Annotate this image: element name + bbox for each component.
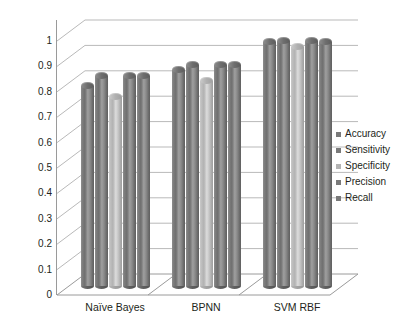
legend-item-label: Specificity <box>345 161 390 171</box>
bar-body <box>277 41 290 286</box>
legend-swatch-icon <box>336 132 341 137</box>
legend-item-label: Sensitivity <box>345 145 390 155</box>
bar <box>228 61 241 286</box>
bar-top-ellipse <box>186 61 199 68</box>
bar-body <box>228 65 241 286</box>
legend-swatch-icon <box>336 164 341 169</box>
bar-body <box>214 65 227 286</box>
bar <box>291 43 304 286</box>
legend-item[interactable]: Sensitivity <box>336 142 416 158</box>
bar-chart: 10.90.80.70.60.50.40.30.20.10 Naïve Baye… <box>0 0 417 330</box>
bar-top-ellipse <box>291 43 304 50</box>
bar <box>186 61 199 286</box>
legend-item-label: Recall <box>345 193 373 203</box>
bar-body <box>305 41 318 286</box>
bar-body <box>137 76 150 285</box>
legend-item[interactable]: Specificity <box>336 158 416 174</box>
bar-body <box>263 42 276 286</box>
bar-body <box>123 76 136 285</box>
bar-top-ellipse <box>137 72 150 79</box>
bar-top-ellipse <box>123 72 136 79</box>
bar-body <box>186 65 199 286</box>
bar-body <box>291 47 304 286</box>
bar <box>277 37 290 286</box>
bar-top-ellipse <box>228 61 241 68</box>
bar-body <box>81 86 94 285</box>
bar <box>123 72 136 285</box>
chart-legend: AccuracySensitivitySpecificityPrecisionR… <box>336 126 416 206</box>
legend-item[interactable]: Accuracy <box>336 126 416 142</box>
bar-top-ellipse <box>305 37 318 44</box>
x-axis-category-label: Naïve Bayes <box>70 301 161 313</box>
bar-top-ellipse <box>214 61 227 68</box>
bar-body <box>109 97 122 286</box>
legend-item-label: Accuracy <box>345 129 386 139</box>
legend-swatch-icon <box>336 148 341 153</box>
bar-top-ellipse <box>109 93 122 100</box>
bar-body <box>200 81 213 285</box>
bar <box>263 38 276 286</box>
bar-body <box>172 70 185 286</box>
bar-top-ellipse <box>319 38 332 45</box>
bar <box>214 61 227 286</box>
bar-body <box>95 76 108 285</box>
legend-swatch-icon <box>336 180 341 185</box>
bar-top-ellipse <box>172 66 185 73</box>
x-axis-category-label: BPNN <box>161 301 252 313</box>
bar-top-ellipse <box>277 37 290 44</box>
bar-top-ellipse <box>95 72 108 79</box>
legend-item[interactable]: Precision <box>336 174 416 190</box>
x-axis-category-label: SVM RBF <box>252 301 343 313</box>
bar-body <box>319 42 332 286</box>
bar <box>95 72 108 285</box>
legend-item[interactable]: Recall <box>336 190 416 206</box>
bar <box>109 93 122 286</box>
bar <box>200 77 213 285</box>
bar <box>305 37 318 286</box>
legend-item-label: Precision <box>345 177 386 187</box>
legend-swatch-icon <box>336 196 341 201</box>
bar <box>137 72 150 285</box>
bar <box>172 66 185 286</box>
bar-top-ellipse <box>263 38 276 45</box>
bar <box>319 38 332 286</box>
bar <box>81 82 94 285</box>
